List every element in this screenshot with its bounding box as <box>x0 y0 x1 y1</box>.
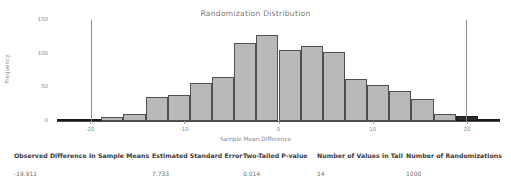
x-axis-tick-mark <box>373 121 374 124</box>
histogram-bar <box>279 50 301 121</box>
x-axis-tick-mark <box>279 121 280 124</box>
summary-stats-table: Observed Difference In Sample Means-19.9… <box>0 152 511 188</box>
stats-column-value: -19.911 <box>14 170 149 177</box>
y-axis-tick-label: 50 <box>41 84 48 89</box>
x-axis-tick-mark <box>90 121 91 124</box>
y-axis: Frequency 050100150 <box>0 14 57 129</box>
x-axis-label: Sample Mean Difference <box>0 136 511 142</box>
stats-column-value: 0.014 <box>243 170 308 177</box>
histogram-bar <box>168 95 190 121</box>
x-axis-tick-label: 0 <box>277 126 280 132</box>
x-axis-tick-mark <box>184 121 185 124</box>
stats-column-header: Estimated Standard Error <box>152 152 242 159</box>
stats-column: Observed Difference In Sample Means-19.9… <box>14 152 149 177</box>
stats-column: Estimated Standard Error7.733 <box>152 152 242 177</box>
plot-area <box>57 20 500 121</box>
x-axis-tick-mark <box>467 121 468 124</box>
x-axis-tick-label: -20 <box>86 126 95 132</box>
histogram-bar <box>123 114 145 121</box>
x-axis-tick-label: 10 <box>369 126 376 132</box>
observed-difference-reference-line <box>466 20 467 121</box>
histogram-bar <box>212 77 234 121</box>
stats-column-value: 1000 <box>406 170 502 177</box>
histogram-bar <box>345 79 367 121</box>
histogram-bar <box>434 114 456 121</box>
histogram-bar <box>389 91 411 121</box>
x-axis-tick-label: -10 <box>180 126 189 132</box>
histogram-bar <box>323 52 345 121</box>
observed-difference-reference-line <box>91 20 92 121</box>
histogram-bar <box>411 99 433 121</box>
stats-column-header: Observed Difference In Sample Means <box>14 152 149 159</box>
stats-column-value: 14 <box>317 170 403 177</box>
randomization-distribution-panel: Randomization Distribution Frequency 050… <box>0 0 511 188</box>
stats-column-header: Two-Tailed P-value <box>243 152 308 159</box>
stats-column: Two-Tailed P-value0.014 <box>243 152 308 177</box>
histogram-bar <box>146 97 168 121</box>
y-axis-label: Frequency <box>4 49 10 89</box>
stats-column-value: 7.733 <box>152 170 242 177</box>
histogram-bar <box>301 46 323 121</box>
stats-column: Number of Randomizations1000 <box>406 152 502 177</box>
histogram-bar <box>190 83 212 121</box>
x-axis-tick-label: 20 <box>464 126 471 132</box>
stats-column-header: Number of Values in Tail <box>317 152 403 159</box>
histogram-bar <box>256 35 278 121</box>
histogram-chart: Randomization Distribution Frequency 050… <box>0 0 511 150</box>
y-axis-tick-label: 150 <box>38 17 48 22</box>
histogram-bar <box>234 43 256 121</box>
chart-title: Randomization Distribution <box>0 9 511 18</box>
x-axis: Sample Mean Difference -20-1001020 <box>0 121 511 150</box>
stats-column-header: Number of Randomizations <box>406 152 502 159</box>
y-axis-tick-label: 100 <box>38 51 48 56</box>
stats-column: Number of Values in Tail14 <box>317 152 403 177</box>
histogram-bar <box>367 85 389 121</box>
